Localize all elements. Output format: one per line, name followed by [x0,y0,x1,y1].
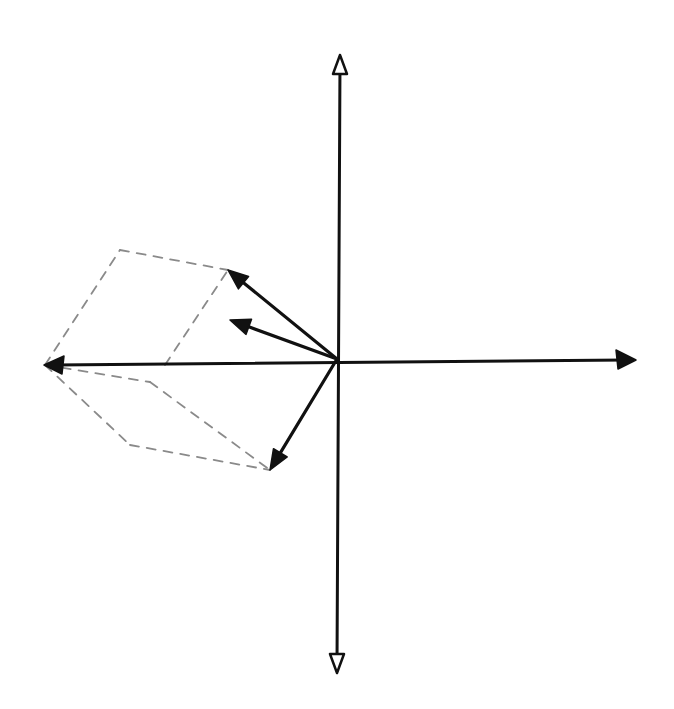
vector-upper-left-long [243,283,337,359]
arrow-down-icon [330,654,344,673]
dashed-construction-line [45,250,120,365]
coordinate-axes [44,55,636,673]
dashed-construction-line [130,445,270,470]
vector-diagram [0,0,674,709]
dashed-construction-line [120,250,228,270]
arrow-up-icon [333,55,347,74]
dashed-construction-line [165,270,228,365]
horizontal-axis [55,360,626,365]
vector-lower-left [280,359,337,453]
dashed-construction-line [150,382,270,470]
arrow-left-icon [44,356,64,374]
arrow-right-icon [616,350,636,369]
vectors [228,270,337,470]
vector-upper-left-short [249,327,337,359]
arrowhead-icon [270,449,287,470]
arrowhead-icon [230,319,252,334]
